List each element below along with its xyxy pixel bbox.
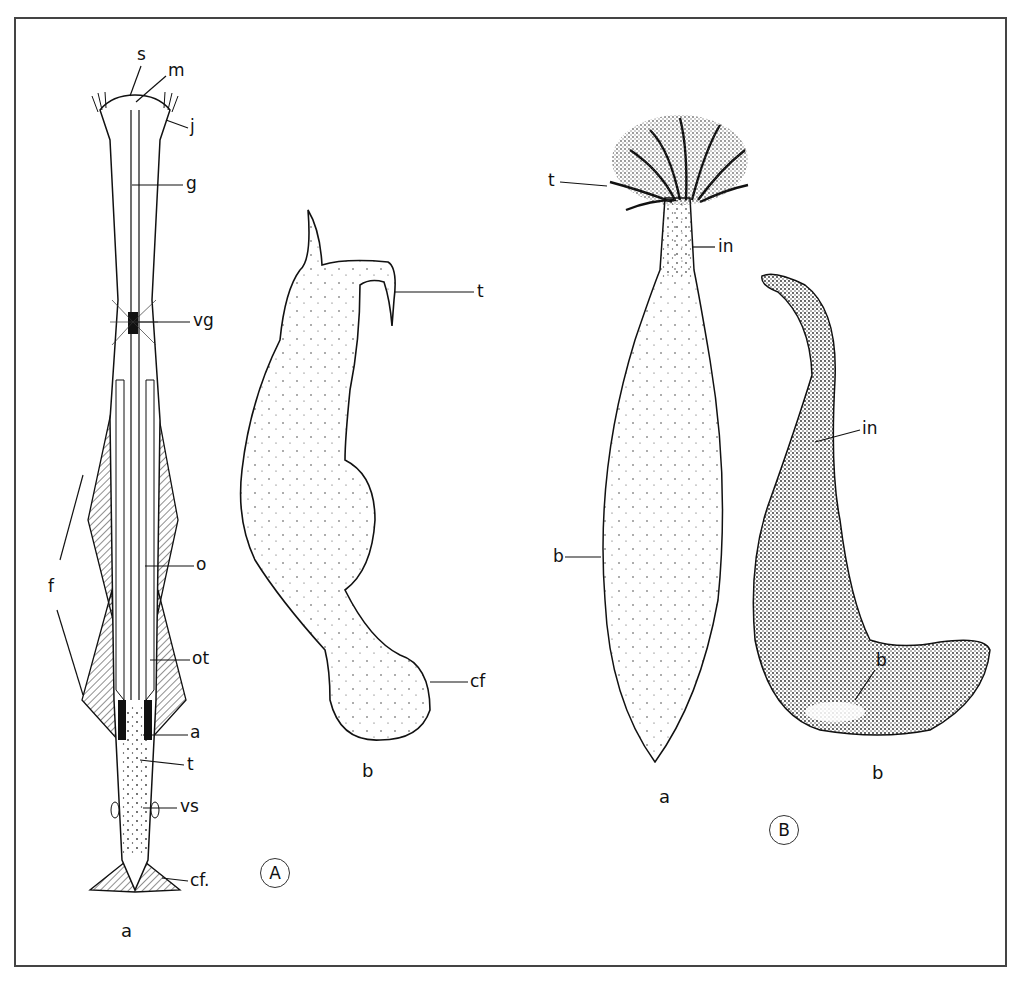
label-j: j (190, 118, 195, 135)
panel-letter: A (269, 863, 281, 883)
label-t: t (187, 756, 194, 773)
label-b: b (553, 548, 564, 565)
label-f: f (48, 578, 54, 595)
label-ot: ot (192, 650, 209, 667)
sub-label-A-b: b (362, 760, 373, 781)
sub-label-A-a: a (121, 920, 132, 941)
label-vg: vg (193, 312, 214, 329)
label-in: in (862, 420, 878, 437)
panel-letter: B (778, 820, 790, 840)
sub-label-B-a: a (659, 786, 670, 807)
label-vs: vs (180, 798, 199, 815)
specimen-B-a-drawing (560, 115, 748, 762)
label-g: g (186, 175, 197, 192)
label-cf: cf (470, 673, 485, 690)
label-in: in (718, 238, 734, 255)
specimen-B-b-drawing (753, 274, 990, 735)
label-s: s (137, 46, 146, 63)
sub-label-B-b: b (872, 762, 883, 783)
label-b: b (876, 652, 887, 669)
panel-label-A: A (260, 858, 290, 888)
specimen-A-b-drawing (241, 210, 474, 740)
label-m: m (168, 62, 185, 79)
label-a: a (190, 724, 200, 741)
figure-drawings (0, 0, 1012, 981)
label-o: o (196, 556, 206, 573)
label-cf: cf. (190, 872, 210, 889)
label-t: t (477, 283, 484, 300)
specimen-A-a-drawing (57, 66, 194, 892)
label-t: t (548, 172, 555, 189)
panel-label-B: B (769, 815, 799, 845)
